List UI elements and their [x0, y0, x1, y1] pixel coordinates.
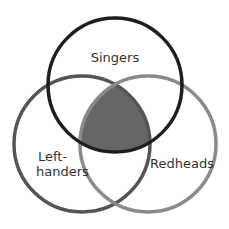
- singers-label: Singers: [91, 50, 140, 65]
- venn-diagram: Singers Left- handers Redheads: [0, 0, 229, 229]
- left-handers-label-line1: Left-: [38, 149, 67, 164]
- redheads-label: Redheads: [150, 156, 214, 171]
- left-handers-label-line2: handers: [36, 164, 89, 179]
